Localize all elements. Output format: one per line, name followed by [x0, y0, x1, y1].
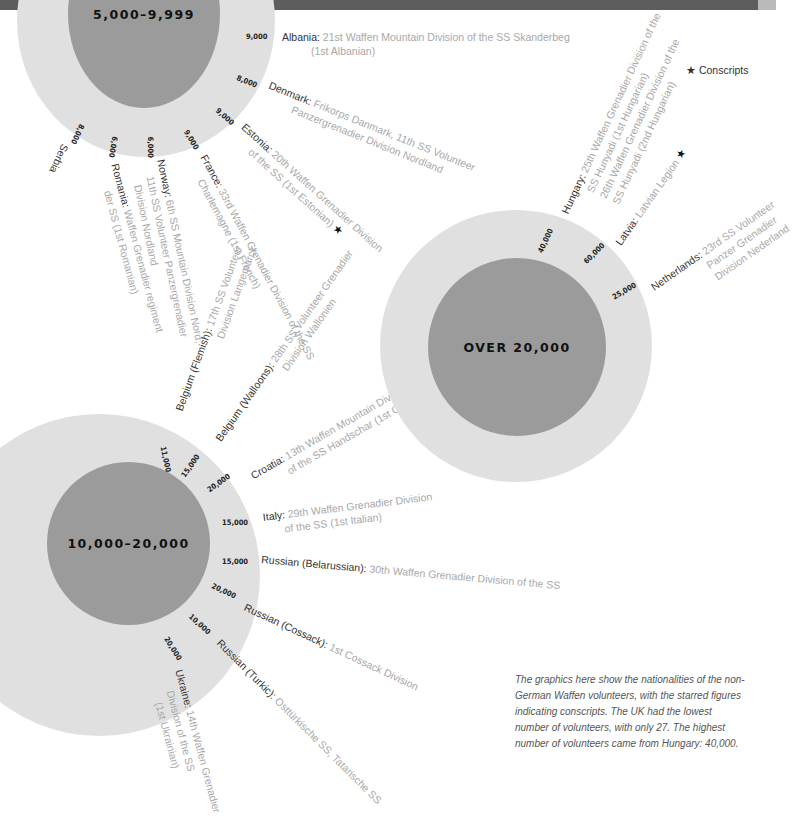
value-belarussian: 15,000 — [222, 557, 248, 566]
label-albania: Albania: 21st Waffen Mountain Division o… — [282, 30, 570, 58]
value-italy: 15,000 — [222, 518, 248, 527]
conscript-star-icon: ★ — [673, 146, 689, 161]
group-label: 10,000–20,000 — [67, 536, 189, 551]
value-norway: 6,000 — [146, 137, 155, 158]
label-italy: Italy: 29th Waffen Grenadier Division of… — [262, 489, 435, 538]
core-10000-20000: 10,000–20,000 — [47, 462, 210, 625]
label-hungary: Hungary: 25th Waffen Grenadier Division … — [558, 11, 702, 234]
legend: ★ Conscripts — [686, 64, 749, 76]
star-icon: ★ — [686, 64, 696, 76]
top-bar-tab — [758, 0, 776, 10]
caption: The graphics here show the nationalities… — [515, 672, 745, 752]
group-label: 5,000–9,999 — [93, 7, 195, 22]
label-belarussian: Russian (Belarussian): 30th Waffen Grena… — [261, 552, 561, 592]
label-cossack: Russian (Cossack): 1st Cossack Division — [242, 600, 421, 693]
label-serbia: Serbia — [46, 142, 72, 175]
legend-label: Conscripts — [699, 64, 749, 76]
label-ukraine: Ukraine: 14th Waffen Grenadier Division … — [145, 668, 224, 816]
conscript-star-icon: ★ — [331, 222, 346, 238]
value-albania: 9,000 — [246, 32, 267, 41]
core-over-20000: OVER 20,000 — [428, 258, 606, 436]
group-label: OVER 20,000 — [463, 340, 570, 355]
label-netherlands: Netherlands: 23rd SS Volunteer Panzer Gr… — [648, 197, 793, 316]
